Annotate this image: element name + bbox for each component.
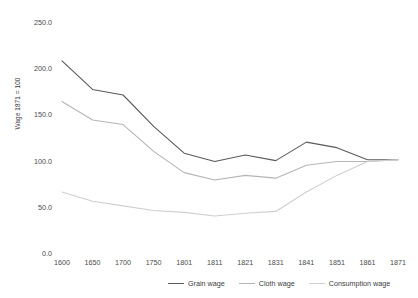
legend-swatch: [239, 283, 255, 284]
legend-swatch: [309, 283, 325, 284]
series-line: [62, 101, 398, 180]
legend-label: Grain wage: [188, 279, 225, 288]
plot-area: [0, 0, 418, 298]
series-line: [62, 160, 398, 216]
legend-item[interactable]: Grain wage: [168, 279, 225, 288]
series-line: [62, 61, 398, 162]
line-chart: Wage 1871 = 100 0.050.0100.0150.0200.025…: [0, 0, 418, 298]
legend-item[interactable]: Cloth wage: [239, 279, 295, 288]
legend-item[interactable]: Consumption wage: [309, 279, 391, 288]
chart-legend: Grain wageCloth wageConsumption wage: [168, 279, 390, 288]
legend-swatch: [168, 283, 184, 284]
legend-label: Cloth wage: [259, 279, 295, 288]
legend-label: Consumption wage: [329, 279, 391, 288]
